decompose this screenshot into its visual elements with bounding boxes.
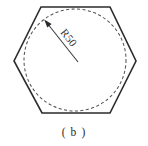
inscribed-circle	[24, 9, 126, 111]
leader-arrowhead-icon	[44, 20, 51, 28]
figure-container: R50 ( b )	[0, 0, 148, 146]
figure-caption: ( b )	[62, 126, 87, 139]
radius-dimension-label: R50	[58, 26, 79, 49]
hexagon-inscribed-circle-diagram: R50 ( b )	[0, 0, 148, 146]
hexagon-outline	[14, 7, 136, 113]
